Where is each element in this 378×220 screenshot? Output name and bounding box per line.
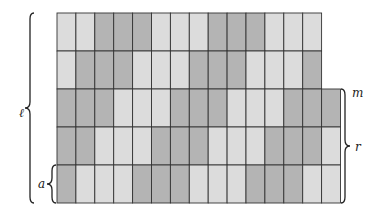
grid-cell: [265, 13, 284, 51]
grid-cell: [322, 89, 341, 127]
grid-cell: [95, 89, 114, 127]
grid-cell: [114, 89, 133, 127]
label-ell: ℓ: [19, 106, 24, 120]
grid-cell: [152, 51, 171, 89]
grid-cell: [76, 165, 95, 203]
grid-cell: [76, 127, 95, 165]
grid-cell: [76, 51, 95, 89]
grid-cell: [265, 165, 284, 203]
grid-row-2: [57, 51, 322, 89]
grid-cell: [303, 13, 322, 51]
grid-cell: [303, 51, 322, 89]
ell-brace-icon: [25, 13, 34, 203]
grid-cell: [246, 165, 265, 203]
grid-row-4: [57, 127, 341, 165]
grid-cell: [284, 51, 303, 89]
grid-cell: [95, 165, 114, 203]
grid-cell: [246, 127, 265, 165]
grid-cell: [303, 89, 322, 127]
grid-cell: [133, 89, 152, 127]
grid-cell: [152, 13, 171, 51]
grid-cell: [284, 165, 303, 203]
grid-cell: [189, 165, 208, 203]
grid-cell: [170, 165, 189, 203]
grid-row-3: [57, 89, 341, 127]
grid-cell: [227, 127, 246, 165]
grid-cell: [189, 13, 208, 51]
grid-cell: [189, 51, 208, 89]
grid-cell: [114, 13, 133, 51]
grid-cell: [170, 51, 189, 89]
grid-cell: [208, 127, 227, 165]
label-a: a: [38, 177, 45, 191]
grid-cell: [95, 13, 114, 51]
r-brace-icon: [341, 89, 350, 203]
grid-cell: [284, 127, 303, 165]
grid-cell: [114, 127, 133, 165]
grid-row-5: [57, 165, 341, 203]
grid-cell: [227, 13, 246, 51]
a-brace-icon: [47, 165, 56, 203]
grid-cell: [227, 89, 246, 127]
grid-cell: [284, 13, 303, 51]
grid-cell: [95, 51, 114, 89]
grid-cell: [227, 51, 246, 89]
grid-cell: [303, 127, 322, 165]
grid-cell: [265, 127, 284, 165]
grid-cell: [57, 127, 76, 165]
label-r: r: [355, 140, 362, 154]
grid-cell: [114, 51, 133, 89]
grid-cell: [265, 51, 284, 89]
grid-cell: [170, 13, 189, 51]
grid-cell: [95, 127, 114, 165]
grid-cell: [152, 89, 171, 127]
grid-cell: [57, 51, 76, 89]
grid-cell: [189, 127, 208, 165]
grid-cell: [208, 51, 227, 89]
grid-cell: [133, 127, 152, 165]
grid-cell: [246, 51, 265, 89]
grid-row-1: [57, 13, 322, 51]
grid-cell: [133, 51, 152, 89]
grid-cell: [57, 165, 76, 203]
tiling-diagram: ℓ a m r: [0, 0, 378, 220]
grid-cell: [152, 165, 171, 203]
grid-cell: [170, 89, 189, 127]
grid-cell: [284, 89, 303, 127]
grid-cell: [76, 13, 95, 51]
grid-cell: [246, 89, 265, 127]
label-m: m: [352, 86, 363, 100]
grid-cell: [208, 89, 227, 127]
grid-cell: [133, 165, 152, 203]
grid-cell: [76, 89, 95, 127]
grid-cell: [322, 127, 341, 165]
shaded-grid: [57, 13, 341, 203]
grid-cell: [57, 13, 76, 51]
grid-cell: [303, 165, 322, 203]
grid-cell: [322, 165, 341, 203]
grid-cell: [208, 165, 227, 203]
grid-cell: [152, 127, 171, 165]
grid-cell: [114, 165, 133, 203]
grid-cell: [170, 127, 189, 165]
grid-cell: [246, 13, 265, 51]
grid-cell: [208, 13, 227, 51]
grid-cell: [133, 13, 152, 51]
grid-cell: [189, 89, 208, 127]
grid-cell: [57, 89, 76, 127]
grid-cell: [265, 89, 284, 127]
grid-cell: [227, 165, 246, 203]
